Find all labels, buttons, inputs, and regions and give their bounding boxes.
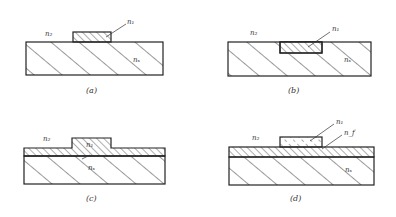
substrate-d — [229, 157, 374, 185]
panel-a: n₂ n₁ nₛ (a) — [26, 18, 163, 95]
label-cover-a: n₂ — [45, 30, 53, 38]
label-cover-b: n₂ — [250, 29, 258, 37]
waveguide-diagram: n₂ n₁ nₛ (a) n₂ n₁ nₛ (b) n₂ n₁ nₛ (c) n… — [0, 0, 396, 217]
film-d — [229, 147, 374, 157]
label-cover-d: n₂ — [252, 134, 260, 142]
label-film-d: n_f — [344, 129, 356, 137]
label-substrate-d: nₛ — [345, 166, 353, 174]
label-guide-a: n₁ — [127, 18, 135, 26]
label-cover-c: n₂ — [43, 135, 51, 143]
caption-a: (a) — [86, 86, 97, 95]
caption-c: (c) — [86, 194, 97, 203]
panel-b: n₂ n₁ nₛ (b) — [228, 25, 371, 95]
label-strip-d: n₁ — [336, 118, 344, 126]
label-guide-c: n₁ — [86, 141, 94, 149]
substrate-a — [26, 42, 163, 75]
label-substrate-b: nₛ — [344, 56, 352, 64]
guide-a — [73, 32, 111, 42]
label-substrate-c: nₛ — [88, 164, 96, 172]
caption-b: (b) — [288, 86, 299, 95]
caption-d: (d) — [290, 194, 301, 203]
panel-c: n₂ n₁ nₛ (c) — [24, 135, 165, 203]
panel-d: n₂ n₁ n_f nₛ (d) — [229, 118, 374, 203]
strip-d — [280, 137, 322, 147]
label-substrate-a: nₛ — [133, 56, 141, 64]
label-guide-b: n₁ — [332, 25, 340, 33]
